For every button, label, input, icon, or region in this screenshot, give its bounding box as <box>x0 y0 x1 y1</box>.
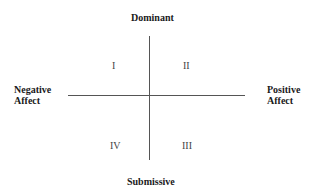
quadrant-label-ii: II <box>183 60 190 71</box>
axis-label-left-line1: Negative <box>14 84 51 95</box>
axis-label-right: Positive Affect <box>267 84 300 106</box>
vertical-axis-line <box>149 36 150 160</box>
quadrant-label-iii: III <box>182 140 192 151</box>
axis-label-top: Dominant <box>131 12 174 23</box>
quadrant-label-i: I <box>112 60 115 71</box>
axis-label-bottom: Submissive <box>127 176 175 187</box>
axis-label-right-line1: Positive <box>267 84 300 95</box>
axis-label-right-line2: Affect <box>267 95 300 106</box>
quadrant-label-iv: IV <box>110 140 121 151</box>
horizontal-axis-line <box>68 95 245 96</box>
axis-label-left: Negative Affect <box>14 84 51 106</box>
axis-label-left-line2: Affect <box>14 95 51 106</box>
